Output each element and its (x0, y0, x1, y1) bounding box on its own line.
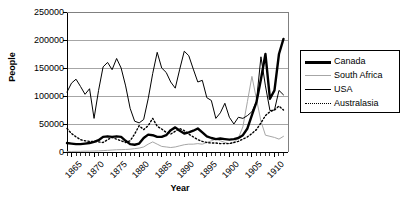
legend-item-canada: Canada (301, 54, 399, 68)
legend-item-australasia: Australasia (301, 96, 399, 110)
legend-label: USA (334, 84, 353, 94)
legend-swatch-south-africa (305, 70, 331, 80)
chart-container: People Year 250000 200000 150000 100000 … (0, 0, 407, 204)
legend: Canada South Africa USA Australasia (300, 50, 400, 113)
legend-item-usa: USA (301, 82, 399, 96)
legend-swatch-canada (305, 56, 331, 66)
legend-item-south-africa: South Africa (301, 68, 399, 82)
legend-label: Canada (334, 56, 366, 66)
legend-swatch-usa (305, 84, 331, 94)
legend-swatch-australasia (305, 98, 331, 108)
legend-label: Australasia (334, 98, 379, 108)
legend-label: South Africa (334, 70, 383, 80)
